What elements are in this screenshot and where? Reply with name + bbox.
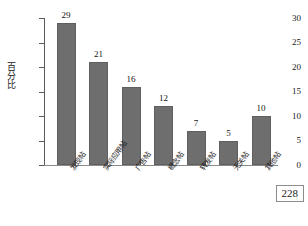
y-axis-tick — [39, 43, 44, 44]
y-axis-line — [44, 18, 45, 166]
y-axis-tick-label: 20 — [270, 63, 308, 72]
bar — [122, 87, 141, 165]
y-axis-tick — [39, 141, 44, 142]
bar-value-label: 29 — [52, 11, 80, 20]
page-number-box: 228 — [276, 185, 305, 202]
bar-value-label: 16 — [117, 75, 145, 84]
y-axis-tick — [39, 165, 44, 166]
y-axis-tick-label: 15 — [270, 87, 308, 96]
y-axis-tick — [39, 92, 44, 93]
y-axis-tick-label: 5 — [270, 136, 308, 145]
y-axis-tick — [39, 18, 44, 19]
bar-value-label: 10 — [247, 104, 275, 113]
bar — [89, 62, 108, 165]
y-axis-title: 百分比 — [2, 62, 16, 89]
bar-value-label: 5 — [215, 129, 243, 138]
y-axis-tick — [39, 67, 44, 68]
bar — [57, 23, 76, 165]
y-axis-tick-label: 10 — [270, 112, 308, 121]
bar-chart-figure: 百分比 051015202530 292116127510 发现帖实际应用帖广告… — [0, 0, 308, 226]
bar-value-label: 21 — [85, 50, 113, 59]
y-axis-tick — [39, 116, 44, 117]
bar — [252, 116, 271, 165]
y-axis-tick-label: 30 — [270, 14, 308, 23]
y-axis-tick-label: 25 — [270, 38, 308, 47]
bar — [154, 106, 173, 165]
bar-value-label: 7 — [182, 119, 210, 128]
bar-value-label: 12 — [150, 94, 178, 103]
